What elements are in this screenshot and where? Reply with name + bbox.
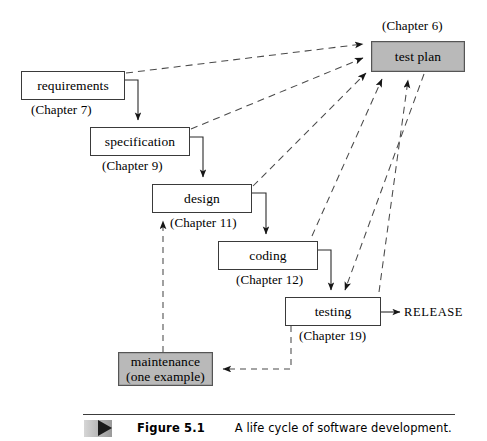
node-maintenance-label: maintenance	[131, 354, 200, 369]
chapter-label-testing: (Chapter 19)	[299, 328, 366, 344]
figure-description: A life cycle of software development.	[235, 421, 452, 435]
node-coding[interactable]: coding	[218, 241, 318, 270]
solid-edge-specification-to-design	[190, 137, 203, 177]
node-coding-label: coding	[249, 248, 286, 263]
node-design[interactable]: design	[152, 184, 252, 213]
caption-rule	[83, 414, 455, 415]
chapter-label-requirements: (Chapter 7)	[31, 102, 92, 118]
figure-number: Figure 5.1	[137, 421, 205, 435]
dashed-edge-testing-to-maintenance	[223, 326, 291, 369]
figure-caption: Figure 5.1 A life cycle of software deve…	[0, 404, 487, 441]
node-specification-label: specification	[105, 134, 175, 149]
release-label: RELEASE	[404, 305, 463, 320]
solid-edge-coding-to-testing	[318, 250, 331, 290]
chapter-label-design: (Chapter 11)	[170, 215, 237, 231]
dashed-edge-testing-to-test-plan	[379, 80, 408, 292]
caption-triangle	[98, 420, 112, 436]
triangle-right-icon	[84, 420, 128, 437]
dashed-edge-requirements-to-test-plan	[126, 44, 363, 73]
solid-edge-design-to-coding	[252, 193, 266, 234]
solid-edge-requirements-to-specification	[125, 80, 138, 120]
node-requirements[interactable]: requirements	[21, 71, 125, 100]
node-maintenance-sublabel: (one example)	[126, 369, 205, 384]
dashed-edge-coding-to-test-plan	[312, 79, 382, 236]
node-design-label: design	[184, 191, 220, 206]
dashed-edge-specification-to-test-plan	[191, 58, 363, 129]
figure-container: requirements (Chapter 7) specification (…	[0, 0, 487, 441]
node-specification[interactable]: specification	[90, 127, 190, 156]
chapter-label-test-plan: (Chapter 6)	[382, 18, 443, 34]
caption-text: Figure 5.1 A life cycle of software deve…	[137, 421, 452, 435]
node-testing[interactable]: testing	[285, 297, 381, 326]
node-requirements-label: requirements	[37, 78, 109, 93]
node-test-plan[interactable]: test plan	[371, 41, 465, 72]
chapter-label-specification: (Chapter 9)	[102, 158, 163, 174]
node-test-plan-label: test plan	[395, 49, 441, 64]
dashed-edge-design-to-test-plan	[253, 73, 366, 186]
dashed-edge-test-plan-to-testing	[345, 74, 424, 290]
node-testing-label: testing	[315, 304, 352, 319]
chapter-label-coding: (Chapter 12)	[236, 272, 303, 288]
node-maintenance[interactable]: maintenance (one example)	[118, 352, 213, 386]
